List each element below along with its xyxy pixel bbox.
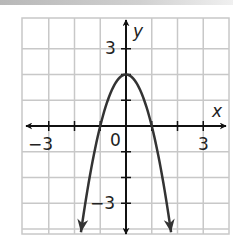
y-tick-label-3: 3 — [105, 38, 116, 58]
y-axis-label: y — [132, 21, 144, 41]
x-axis-label: x — [211, 101, 223, 121]
parabola-graph: y x 3 −3 −3 0 3 — [0, 0, 233, 250]
x-tick-label-0: 0 — [110, 130, 121, 150]
x-tick-label-neg3: −3 — [28, 134, 53, 154]
x-tick-label-3: 3 — [198, 134, 209, 154]
y-tick-label-neg3: −3 — [90, 193, 115, 213]
